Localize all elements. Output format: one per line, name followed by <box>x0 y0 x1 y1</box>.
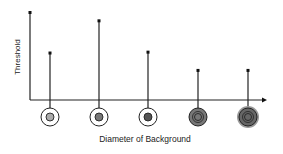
threshold-point <box>49 52 52 55</box>
background-disk-icon <box>90 108 108 126</box>
center-disk <box>46 113 54 121</box>
center-disk <box>95 113 103 121</box>
threshold-point <box>98 19 101 22</box>
x-axis-arrow <box>262 98 267 103</box>
center-disk <box>245 114 252 121</box>
y-axis-top-marker <box>29 11 32 14</box>
background-disk-icon <box>237 106 259 128</box>
y-axis-label: Threshold <box>13 39 22 75</box>
diagram: Threshold Diameter of Background <box>0 0 283 154</box>
threshold-point <box>247 69 250 72</box>
center-disk <box>195 114 202 121</box>
threshold-point <box>197 69 200 72</box>
x-axis-label: Diameter of Background <box>99 134 191 144</box>
background-disk-icon <box>189 108 207 126</box>
stem-chart: Threshold Diameter of Background <box>0 0 283 154</box>
background-markers <box>41 106 259 128</box>
background-disk-icon <box>139 108 157 126</box>
threshold-point <box>147 51 150 54</box>
stems <box>49 19 250 111</box>
background-disk-icon <box>41 108 59 126</box>
center-disk <box>144 113 152 121</box>
